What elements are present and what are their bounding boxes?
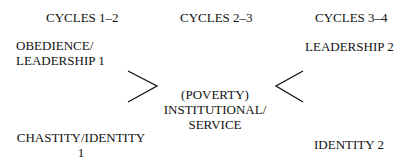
chevron-left-icon: [276, 71, 303, 102]
chevron-right-icon: [128, 71, 157, 102]
connectors: [0, 0, 419, 168]
